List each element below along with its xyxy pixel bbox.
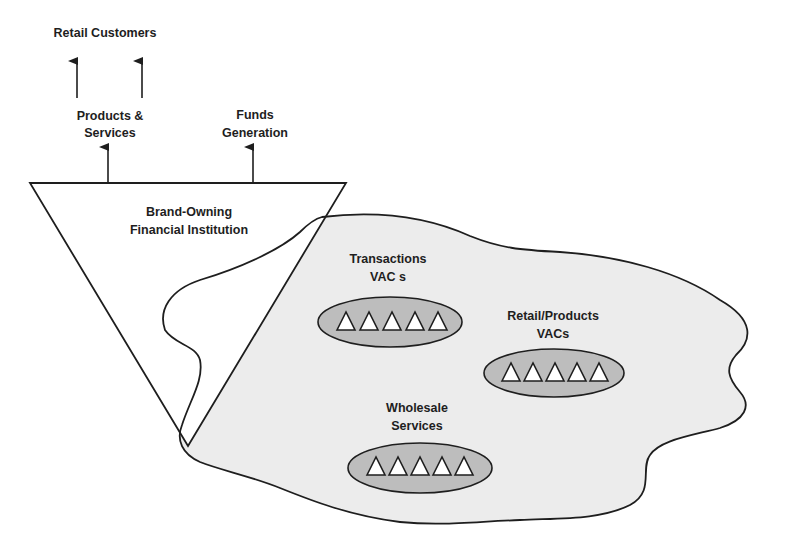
retail-customers-label: Retail Customers xyxy=(54,26,157,40)
funds-generation-label-line1: Funds xyxy=(236,108,274,122)
transactions-label-line2: VAC s xyxy=(370,270,406,284)
value-network-diagram: Retail Customers Products & Services Fun… xyxy=(0,0,785,546)
retail-products-label-line2: VACs xyxy=(537,327,569,341)
transactions-label-line1: Transactions xyxy=(349,252,426,266)
brand-owner-label-line2: Financial Institution xyxy=(130,223,248,237)
retail-products-label-line1: Retail/Products xyxy=(507,309,599,323)
wholesale-label-line1: Wholesale xyxy=(386,401,448,415)
funds-generation-label-line2: Generation xyxy=(222,126,288,140)
wholesale-label-line2: Services xyxy=(391,419,442,433)
brand-owner-label-line1: Brand-Owning xyxy=(146,205,232,219)
products-services-label-line1: Products & xyxy=(77,109,144,123)
products-services-label-line2: Services xyxy=(84,126,135,140)
